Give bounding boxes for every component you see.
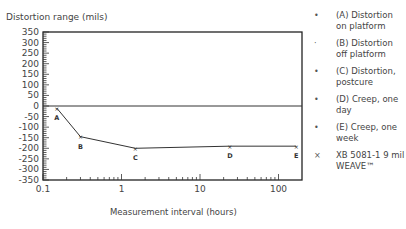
point-label: E: [294, 152, 298, 160]
x-tick-label: 10: [194, 184, 206, 194]
x-marker-icon: ×: [314, 150, 321, 161]
legend: •(A) Distortion on platform ·(B) Distort…: [310, 10, 406, 178]
x-marker-icon: ×: [54, 105, 59, 112]
legend-item: •(D) Creep, one day: [310, 94, 406, 116]
y-tick-label: -100: [19, 122, 40, 132]
y-tick-label: -150: [19, 133, 40, 143]
y-tick-label: 350: [22, 27, 39, 37]
x-tick-label: 100: [270, 184, 287, 194]
y-tick-label: -250: [19, 154, 40, 164]
y-tick-label: 200: [22, 59, 39, 69]
legend-item: •(C) Distortion, postcure: [310, 66, 406, 88]
legend-item: •(A) Distortion on platform: [310, 10, 406, 32]
y-tick-label: 100: [22, 80, 39, 90]
point-label: A: [54, 114, 59, 122]
bullet-icon: ·: [314, 38, 317, 49]
y-tick-label: 300: [22, 38, 39, 48]
x-marker-icon: ×: [78, 133, 83, 140]
x-marker-icon: ×: [294, 143, 299, 150]
y-tick-label: -200: [19, 143, 40, 153]
y-tick-label: 0: [33, 101, 39, 111]
legend-item: ×XB 5081-1 9 mil WEAVE™: [310, 150, 406, 172]
x-marker-icon: ×: [227, 143, 232, 150]
point-label: C: [133, 154, 138, 162]
legend-item: •(E) Creep, one week: [310, 122, 406, 144]
y-tick-label: 250: [22, 48, 39, 58]
y-tick-label: 50: [28, 90, 40, 100]
bullet-icon: •: [314, 66, 319, 77]
bullet-icon: •: [314, 10, 319, 21]
bullet-icon: •: [314, 122, 319, 133]
y-tick-label: 150: [22, 69, 39, 79]
point-label: B: [78, 143, 83, 151]
bullet-icon: •: [314, 94, 319, 105]
y-tick-label: -300: [19, 164, 40, 174]
series-line: [57, 108, 296, 148]
x-tick-label: 0.1: [36, 184, 50, 194]
y-tick-label: -50: [24, 112, 39, 122]
legend-item: ·(B) Distortion off platform: [310, 38, 406, 60]
x-marker-icon: ×: [133, 145, 138, 152]
x-tick-label: 1: [119, 184, 125, 194]
point-label: D: [227, 152, 233, 160]
